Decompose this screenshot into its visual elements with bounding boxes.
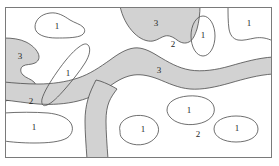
region-label: 1	[247, 18, 252, 28]
map-plot-area: 1 3 1 1 2 3 1 3 2 1 1 1 2 1	[4, 6, 273, 159]
region-label: 2	[196, 129, 201, 139]
region-label: 3	[157, 65, 162, 75]
region-label: 1	[66, 68, 71, 78]
region-label: 3	[18, 51, 23, 61]
map-canvas: 1 3 1 1 2 3 1 3 2 1 1 1 2 1	[0, 0, 279, 166]
region-label: 1	[235, 123, 240, 133]
region-label: 1	[141, 124, 146, 134]
region-label: 1	[32, 122, 37, 132]
region-label: 1	[187, 105, 192, 115]
map-contents	[4, 6, 273, 159]
region-contour-map-figure: 1 3 1 1 2 3 1 3 2 1 1 1 2 1	[0, 0, 279, 166]
region-label: 2	[171, 39, 176, 49]
region-label: 2	[29, 96, 34, 106]
region-label: 1	[201, 30, 206, 40]
region-label: 1	[55, 21, 60, 31]
region-label: 3	[154, 18, 159, 28]
